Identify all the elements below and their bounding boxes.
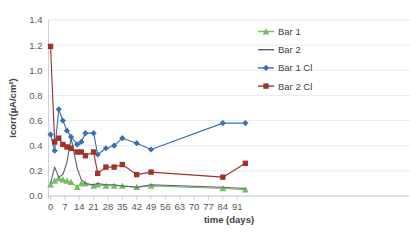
y-axis-tick-label: 0.2 bbox=[29, 165, 42, 176]
x-axis-tick-label: 35 bbox=[117, 201, 128, 212]
data-point-marker bbox=[95, 171, 100, 176]
data-point-marker bbox=[220, 174, 225, 179]
data-point-marker bbox=[56, 135, 61, 140]
y-axis-tick-label: 1.4 bbox=[29, 14, 42, 25]
x-axis-tick-label: 91 bbox=[232, 201, 243, 212]
x-axis-tick-label: 49 bbox=[146, 201, 157, 212]
legend-item-label: Bar 1 Cl bbox=[278, 62, 312, 73]
legend-item-label: Bar 2 bbox=[278, 44, 301, 55]
x-axis-tick-label: 14 bbox=[74, 201, 85, 212]
data-point-marker bbox=[148, 169, 153, 174]
legend-swatch-marker bbox=[263, 83, 268, 88]
y-axis-tick-label: 1.2 bbox=[29, 40, 42, 51]
data-point-marker bbox=[83, 153, 88, 158]
legend-item-label: Bar 2 Cl bbox=[278, 81, 312, 92]
x-axis-tick-label: 70 bbox=[189, 201, 200, 212]
x-axis-tick-label: 77 bbox=[203, 201, 214, 212]
data-point-marker bbox=[103, 164, 108, 169]
data-point-marker bbox=[134, 172, 139, 177]
y-axis-title: Icorr(µA/cm²) bbox=[7, 78, 18, 137]
legend-item-label: Bar 1 bbox=[278, 26, 301, 37]
data-point-marker bbox=[120, 162, 125, 167]
y-axis-tick-label: 0.0 bbox=[29, 190, 42, 201]
x-axis-title: time (days) bbox=[204, 214, 254, 225]
x-axis-tick-label: 63 bbox=[174, 201, 185, 212]
x-axis-tick-label: 21 bbox=[88, 201, 99, 212]
x-axis-tick-label: 42 bbox=[131, 201, 142, 212]
x-axis-tick-labels: 07142128354249566370778491 bbox=[48, 201, 243, 212]
data-point-marker bbox=[243, 161, 248, 166]
chart-container: 0.00.20.40.60.81.01.21.4 071421283542495… bbox=[0, 0, 410, 238]
data-point-marker bbox=[91, 149, 96, 154]
x-axis-tick-label: 0 bbox=[48, 201, 53, 212]
x-axis-tick-label: 84 bbox=[218, 201, 229, 212]
y-axis-tick-label: 0.6 bbox=[29, 115, 42, 126]
data-point-marker bbox=[48, 44, 53, 49]
icorr-time-line-chart: 0.00.20.40.60.81.01.21.4 071421283542495… bbox=[0, 0, 410, 238]
x-axis-tick-label: 28 bbox=[103, 201, 114, 212]
x-axis-tick-label: 7 bbox=[62, 201, 67, 212]
data-point-marker bbox=[68, 146, 73, 151]
y-axis-tick-label: 1.0 bbox=[29, 65, 42, 76]
data-point-marker bbox=[111, 164, 116, 169]
x-axis-tick-label: 56 bbox=[160, 201, 171, 212]
y-axis-tick-label: 0.4 bbox=[29, 140, 42, 151]
y-axis-tick-label: 0.8 bbox=[29, 90, 42, 101]
